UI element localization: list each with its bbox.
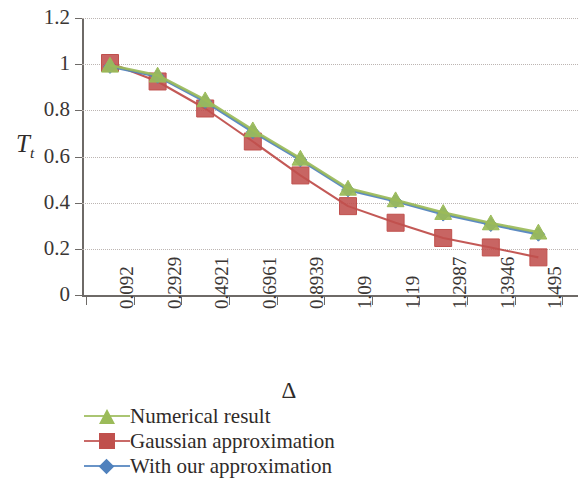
- legend-key-triangle-icon: [84, 406, 130, 426]
- data-point-marker: [530, 249, 547, 266]
- series-line: [110, 63, 538, 257]
- x-axis-tick-label: 0.8939: [307, 257, 326, 309]
- x-axis-tick: [86, 297, 87, 305]
- y-axis-tick-label: 0.6: [10, 146, 70, 167]
- legend-marker: [99, 459, 115, 475]
- legend-item: With our approximation: [84, 454, 504, 478]
- legend-item: Numerical result: [84, 404, 504, 428]
- x-axis-title: Δ: [0, 378, 578, 404]
- x-axis-tick-label: 1.495: [545, 266, 564, 309]
- x-axis-tick-label: 1.19: [403, 276, 422, 309]
- x-axis-tick-label: 1.3946: [498, 257, 517, 309]
- legend-marker: [99, 433, 115, 449]
- legend-marker: [99, 409, 115, 424]
- y-axis-tick-label: 1.2: [10, 7, 70, 28]
- data-point-marker: [387, 214, 404, 231]
- legend-label: Gaussian approximation: [130, 430, 335, 453]
- y-axis-tick-label: 0: [10, 284, 70, 305]
- x-axis-tick-label: 0.092: [117, 266, 136, 309]
- x-axis-tick-label: 1.2987: [450, 257, 469, 309]
- series-layer: [82, 18, 578, 295]
- data-point-marker: [340, 198, 357, 215]
- data-point-marker: [435, 229, 452, 246]
- series-square: [102, 55, 547, 266]
- x-axis-tick-label: 0.6961: [260, 257, 279, 309]
- x-axis-tick-label: 0.2929: [165, 257, 184, 309]
- y-axis-tick-label: 0.2: [10, 238, 70, 259]
- y-axis-tick-label: 0.4: [10, 192, 70, 213]
- series-diamond: [104, 60, 545, 242]
- legend-key-diamond-icon: [84, 456, 130, 476]
- legend-label: Numerical result: [130, 405, 271, 428]
- x-axis-tick-label: 0.4921: [212, 257, 231, 309]
- x-axis-tick-label: 1.09: [355, 276, 374, 309]
- legend-label: With our approximation: [130, 455, 332, 478]
- plot-area: [82, 18, 578, 295]
- legend-item: Gaussian approximation: [84, 429, 504, 453]
- data-point-marker: [482, 239, 499, 256]
- y-axis-tick-label: 1: [10, 53, 70, 74]
- data-point-marker: [292, 167, 309, 184]
- chart-legend: Numerical resultGaussian approximationWi…: [84, 404, 504, 479]
- legend-key-square-icon: [84, 431, 130, 451]
- series-triangle: [102, 57, 547, 239]
- y-axis-tick-label: 0.8: [10, 99, 70, 120]
